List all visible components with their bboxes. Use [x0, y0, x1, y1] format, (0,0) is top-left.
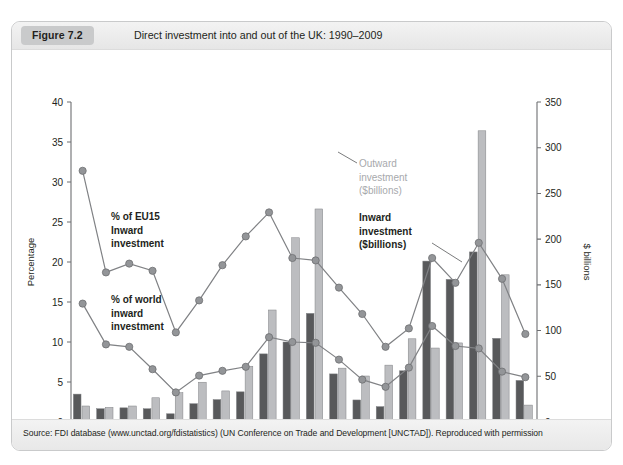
- marker-eu15-share: [382, 343, 389, 350]
- annotation-world-inward: % of worldinwardinvestment: [111, 294, 164, 332]
- bar-outward: [222, 391, 230, 422]
- marker-eu15-share: [102, 269, 109, 276]
- marker-eu15-share: [405, 325, 412, 332]
- bar-inward: [283, 342, 291, 422]
- right-axis-title: $ billions: [582, 244, 593, 281]
- figure-frame: Figure 7.2 Direct investment into and ou…: [11, 21, 612, 451]
- bar-inward: [516, 380, 524, 422]
- left-axis-tick-label: 40: [52, 97, 64, 108]
- marker-world-share: [196, 372, 203, 379]
- left-axis-tick-label: 25: [52, 217, 64, 228]
- leader-inward: [432, 243, 462, 262]
- marker-eu15-share: [242, 233, 249, 240]
- right-axis-tick-label: 150: [545, 279, 562, 290]
- annotation-outward-investment: Outwardinvestment($billions): [359, 158, 408, 196]
- annotation-inward-investment-line: investment: [359, 226, 412, 237]
- bar-inward: [73, 394, 81, 422]
- marker-eu15-share: [196, 297, 203, 304]
- bar-inward: [330, 374, 338, 422]
- annotation-world-inward-line: investment: [111, 321, 164, 332]
- marker-world-share: [289, 338, 296, 345]
- marker-eu15-share: [475, 239, 482, 246]
- marker-eu15-share: [289, 254, 296, 261]
- annotation-eu15-inward-line: investment: [111, 238, 164, 249]
- right-axis-tick-label: 250: [545, 188, 562, 199]
- marker-eu15-share: [265, 209, 272, 216]
- right-axis-tick-label: 350: [545, 97, 562, 108]
- annotation-eu15-inward-line: Inward: [111, 225, 143, 236]
- bar-outward: [268, 310, 276, 422]
- bar-outward: [455, 343, 463, 422]
- bar-inward: [446, 279, 454, 422]
- annotation-outward-investment-line: Outward: [359, 158, 397, 169]
- marker-world-share: [335, 356, 342, 363]
- figure-title: Direct investment into and out of the UK…: [134, 26, 382, 45]
- left-axis-tick-label: 15: [52, 297, 64, 308]
- marker-world-share: [498, 368, 505, 375]
- marker-world-share: [265, 334, 272, 341]
- left-axis-tick-label: 35: [52, 137, 64, 148]
- marker-eu15-share: [79, 167, 86, 174]
- annotation-inward-investment-line: ($billions): [359, 239, 406, 250]
- marker-eu15-share: [149, 267, 156, 274]
- marker-world-share: [79, 300, 86, 307]
- marker-world-share: [172, 389, 179, 396]
- bar-outward: [432, 348, 440, 422]
- marker-world-share: [149, 366, 156, 373]
- marker-world-share: [522, 374, 529, 381]
- bar-outward: [175, 393, 183, 422]
- marker-eu15-share: [452, 279, 459, 286]
- investment-chart: 0510152025303540Percentage05010015020025…: [12, 49, 612, 449]
- bar-outward: [338, 368, 346, 422]
- bar-outward: [385, 365, 393, 422]
- marker-world-share: [405, 364, 412, 371]
- marker-eu15-share: [335, 284, 342, 291]
- figure-header: Figure 7.2 Direct investment into and ou…: [12, 22, 611, 50]
- annotation-outward-investment-line: investment: [359, 172, 408, 183]
- bar-outward: [292, 238, 300, 422]
- left-axis-tick-label: 20: [52, 257, 64, 268]
- annotation-outward-investment-line: ($billions): [359, 185, 402, 196]
- bar-inward: [493, 338, 501, 422]
- annotation-eu15-inward-line: % of EU15: [111, 211, 160, 222]
- annotation-inward-investment: Inwardinvestment($billions): [359, 212, 412, 250]
- right-axis-tick-label: 100: [545, 325, 562, 336]
- bar-inward: [236, 392, 244, 422]
- bar-outward: [315, 209, 323, 422]
- marker-world-share: [102, 341, 109, 348]
- marker-world-share: [219, 367, 226, 374]
- annotation-eu15-inward: % of EU15Inwardinvestment: [111, 211, 164, 249]
- marker-eu15-share: [126, 260, 133, 267]
- bar-outward: [245, 366, 253, 422]
- left-axis-tick-label: 10: [52, 337, 64, 348]
- annotation-world-inward-line: inward: [111, 308, 143, 319]
- bar-outward: [199, 382, 207, 422]
- source-citation: Source: FDI database (www.unctad.org/fdi…: [23, 428, 543, 438]
- right-axis-tick-label: 200: [545, 234, 562, 245]
- annotation-world-inward-line: % of world: [111, 294, 162, 305]
- bar-inward: [260, 354, 268, 422]
- marker-eu15-share: [172, 329, 179, 336]
- marker-eu15-share: [522, 330, 529, 337]
- right-axis-tick-label: 50: [545, 371, 557, 382]
- marker-world-share: [429, 322, 436, 329]
- marker-world-share: [382, 383, 389, 390]
- bar-outward: [501, 275, 509, 422]
- bar-group: [73, 131, 532, 422]
- marker-eu15-share: [312, 257, 319, 264]
- leader-outward: [338, 152, 357, 163]
- marker-eu15-share: [359, 310, 366, 317]
- marker-world-share: [452, 342, 459, 349]
- left-axis-tick-label: 5: [57, 377, 63, 388]
- marker-eu15-share: [498, 275, 505, 282]
- bar-inward: [469, 252, 477, 422]
- chart-plot-area: 0510152025303540Percentage05010015020025…: [12, 49, 612, 449]
- marker-world-share: [242, 363, 249, 370]
- marker-eu15-share: [429, 254, 436, 261]
- bar-inward: [306, 313, 314, 422]
- marker-world-share: [312, 339, 319, 346]
- marker-world-share: [359, 376, 366, 383]
- marker-eu15-share: [219, 262, 226, 269]
- annotation-inward-investment-line: Inward: [359, 212, 391, 223]
- left-axis-title: Percentage: [25, 238, 36, 287]
